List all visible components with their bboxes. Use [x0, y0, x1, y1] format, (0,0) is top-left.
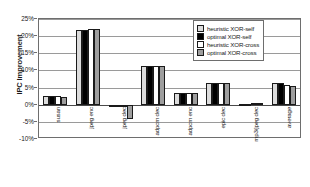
y-tick-mark — [34, 52, 37, 53]
legend: heuristic XOR-selfoptimal XOR-selfheuris… — [193, 20, 264, 61]
legend-item: optimal XOR-self — [197, 33, 259, 40]
y-tick-mark — [34, 138, 37, 139]
bar-group — [39, 19, 72, 137]
y-tick-mark — [34, 104, 37, 105]
bar-group — [137, 19, 170, 137]
bar-group-bars — [137, 19, 170, 137]
y-tick-label: 15% — [2, 49, 34, 56]
bar-slot — [159, 19, 165, 137]
y-tick-mark — [34, 18, 37, 19]
y-tick-label: 20% — [2, 32, 34, 39]
y-tick-mark — [34, 69, 37, 70]
legend-label: heuristic XOR-self — [207, 25, 254, 32]
bar — [61, 97, 67, 105]
y-tick-label: 5% — [2, 83, 34, 90]
legend-swatch — [197, 25, 204, 32]
bar — [290, 86, 296, 105]
legend-item: heuristic XOR-cross — [197, 41, 259, 48]
bar-slot — [61, 19, 67, 137]
bar-group-bars — [72, 19, 105, 137]
bar-slot — [290, 19, 296, 137]
bar-group — [104, 19, 137, 137]
legend-item: optimal XOR-cross — [197, 49, 259, 56]
bar-group-bars — [267, 19, 300, 137]
legend-swatch — [197, 33, 204, 40]
y-tick-label: 25% — [2, 15, 34, 22]
bar — [192, 93, 198, 105]
bar-group-bars — [104, 19, 137, 137]
y-tick-mark — [34, 121, 37, 122]
y-tick-mark — [34, 35, 37, 36]
bar-group-bars — [39, 19, 72, 137]
bar-slot — [127, 19, 133, 137]
ipc-improvement-bar-chart: IPC Improvement 25%20%15%10%5%0%-5%-10% … — [0, 0, 310, 187]
bar — [94, 29, 100, 104]
legend-label: optimal XOR-cross — [207, 49, 256, 56]
bar-group — [267, 19, 300, 137]
legend-label: optimal XOR-self — [207, 33, 251, 40]
legend-swatch — [197, 41, 204, 48]
bar — [127, 105, 133, 120]
y-tick-label: -10% — [2, 135, 34, 142]
bar — [159, 66, 165, 105]
bar — [257, 103, 263, 105]
bar — [224, 83, 230, 105]
legend-swatch — [197, 49, 204, 56]
y-tick-label: 10% — [2, 66, 34, 73]
y-tick-mark — [34, 87, 37, 88]
y-axis-tick-labels: 25%20%15%10%5%0%-5%-10% — [0, 18, 36, 138]
y-tick-label: 0% — [2, 100, 34, 107]
bar-slot — [94, 19, 100, 137]
legend-item: heuristic XOR-self — [197, 25, 259, 32]
bar-group — [72, 19, 105, 137]
y-tick-label: -5% — [2, 117, 34, 124]
legend-label: heuristic XOR-cross — [207, 41, 259, 48]
